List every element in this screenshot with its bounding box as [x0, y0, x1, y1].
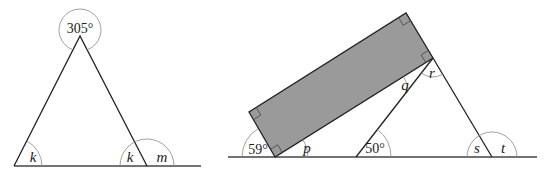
- base-right-exterior-label: m: [157, 149, 168, 165]
- base-left-angle-label: k: [30, 149, 37, 165]
- angle-s-label: s: [474, 140, 480, 156]
- base-right-interior-label: k: [127, 149, 134, 165]
- left-figure: 305° k k m: [14, 9, 201, 166]
- angle-q-label: q: [401, 77, 409, 93]
- angle-59-label: 59°: [248, 142, 268, 157]
- angle-p-label: p: [302, 140, 311, 156]
- line-corner-to-st: [433, 58, 492, 157]
- right-figure: 59° p q r 50° s t: [228, 13, 537, 157]
- apex-angle-label: 305°: [67, 21, 94, 36]
- angle-t-label: t: [501, 140, 506, 156]
- angle-50-label: 50°: [365, 141, 385, 156]
- angle-r-label: r: [429, 65, 435, 81]
- geometry-diagram: 305° k k m 59° p q r: [0, 0, 552, 175]
